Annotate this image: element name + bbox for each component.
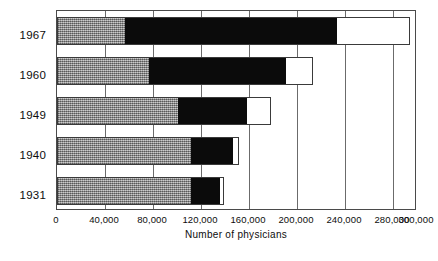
- bar-row: [57, 97, 417, 125]
- x-axis-tick-label: 200,000: [278, 214, 313, 225]
- bar-segment: [149, 57, 286, 85]
- x-axis-tick-label: 80,000: [137, 214, 167, 225]
- x-axis-tick-label: 0: [53, 214, 58, 225]
- x-axis-title: Number of physicians: [56, 229, 416, 240]
- bar-row: [57, 17, 417, 45]
- x-axis-tick-label: 40,000: [89, 214, 119, 225]
- bar-segment: [57, 57, 149, 85]
- bar-segment: [220, 177, 224, 205]
- physicians-stacked-bar-chart: 19671960194919401931 040,00080,000120,00…: [0, 0, 438, 261]
- bar-segment: [233, 137, 239, 165]
- bar-row: [57, 137, 417, 165]
- bar-segment: [191, 137, 233, 165]
- bar-segment: [337, 17, 410, 45]
- x-axis-tick-label: 300,000: [398, 214, 433, 225]
- bar-segment: [125, 17, 336, 45]
- bar-segment: [57, 97, 178, 125]
- y-axis-label-group: 19671960194919401931: [0, 10, 52, 210]
- bar-row: [57, 177, 417, 205]
- plot-area: [56, 10, 416, 210]
- x-axis-tick-label-group: 040,00080,000120,000160,000200,000240,00…: [0, 214, 438, 230]
- bar-row: [57, 57, 417, 85]
- bar-segment: [57, 137, 191, 165]
- y-axis-tick-label: 1931: [20, 190, 46, 202]
- y-axis-tick-label: 1967: [20, 30, 46, 42]
- bar-segment: [286, 57, 312, 85]
- y-axis-tick-label: 1960: [20, 70, 46, 82]
- x-axis-tick-label: 120,000: [182, 214, 217, 225]
- y-axis-tick-label: 1940: [20, 150, 46, 162]
- x-axis-tick-label: 240,000: [326, 214, 361, 225]
- bar-segment: [247, 97, 271, 125]
- bar-segment: [57, 177, 191, 205]
- bar-segment: [178, 97, 246, 125]
- bar-segment: [191, 177, 220, 205]
- y-axis-tick-label: 1949: [20, 110, 46, 122]
- x-axis-tick-label: 160,000: [230, 214, 265, 225]
- bar-segment: [57, 17, 125, 45]
